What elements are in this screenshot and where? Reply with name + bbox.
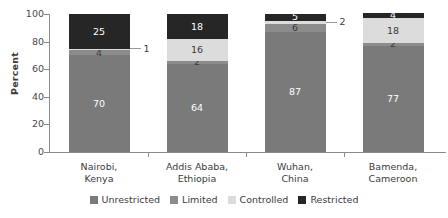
x-axis-category-label: Wuhan,China [240,161,350,185]
bar-segment-limited[interactable]: 6 [265,24,326,32]
segment-value-label: 16 [191,45,203,55]
bar-segment-unrestricted[interactable]: 70 [69,55,130,152]
category-label-line2: Cameroon [338,173,448,185]
bar-segment-limited[interactable]: 2 [167,61,228,64]
category-label-line1: Bamenda, [338,161,448,173]
callout-value-text: 1 [144,44,150,54]
segment-value-label: 77 [387,94,399,104]
segment-callout-label: 2 [326,17,346,27]
category-label-line2: China [240,173,350,185]
callout-value-text: 2 [340,17,346,27]
plot-area: 7042564216188765772184 [50,14,442,152]
bar-segment-controlled[interactable]: 16 [167,39,228,61]
bar-segment-limited[interactable]: 4 [69,50,130,56]
legend-item-controlled[interactable]: Controlled [228,195,289,205]
segment-value-label: 64 [191,103,203,113]
bar-segment-controlled[interactable]: 18 [363,18,424,43]
bar-segment-restricted[interactable]: 18 [167,14,228,39]
segment-value-label: 5 [292,13,298,23]
bar-1[interactable]: 70425 [69,14,130,152]
legend-item-restricted[interactable]: Restricted [298,195,358,205]
legend-label: Controlled [240,195,289,205]
segment-value-label: 6 [292,23,298,33]
bar-2[interactable]: 6421618 [167,14,228,152]
x-axis-tick-mark [344,152,345,157]
legend-label: Limited [182,195,217,205]
y-axis-tick-label: 40 [10,92,44,102]
legend-swatch-icon [298,196,306,204]
y-axis-tick-labels: 020406080100 [10,0,44,218]
bar-3[interactable]: 8765 [265,14,326,152]
category-label-line1: Wuhan, [240,161,350,173]
x-axis-tick-mark [148,152,149,157]
legend-label: Unrestricted [102,195,161,205]
y-axis-tick-label: 80 [10,37,44,47]
category-label-line1: Addis Ababa, [142,161,252,173]
bar-segment-limited[interactable]: 2 [363,43,424,46]
callout-leader-line [130,48,141,49]
y-axis-tick-label: 100 [10,9,44,19]
segment-value-label: 70 [93,99,105,109]
bar-segment-unrestricted[interactable]: 64 [167,64,228,152]
category-label-line1: Nairobi, [44,161,154,173]
bar-segment-restricted[interactable]: 25 [69,14,130,49]
bar-4[interactable]: 772184 [363,13,424,152]
category-label-line2: Ethiopia [142,173,252,185]
callout-leader-line [326,22,337,23]
x-axis-category-label: Bamenda,Cameroon [338,161,448,185]
legend-item-unrestricted[interactable]: Unrestricted [90,195,161,205]
segment-value-label: 18 [191,22,203,32]
x-axis-category-label: Nairobi,Kenya [44,161,154,185]
legend-item-limited[interactable]: Limited [170,195,217,205]
chart-legend: UnrestrictedLimitedControlledRestricted [0,195,448,205]
segment-value-label: 87 [289,87,301,97]
segment-callout-label: 1 [130,44,150,54]
y-axis-tick-label: 20 [10,119,44,129]
y-axis-tick-label: 0 [10,147,44,157]
legend-swatch-icon [228,196,236,204]
y-axis-tick-label: 60 [10,64,44,74]
x-axis-line [49,152,446,153]
x-axis-category-label: Addis Ababa,Ethiopia [142,161,252,185]
category-label-line2: Kenya [44,173,154,185]
x-axis-tick-mark [246,152,247,157]
legend-swatch-icon [90,196,98,204]
segment-value-label: 25 [93,27,105,37]
bar-segment-controlled[interactable] [69,49,130,50]
legend-label: Restricted [310,195,358,205]
segment-value-label: 18 [387,26,399,36]
bar-segment-unrestricted[interactable]: 87 [265,32,326,152]
legend-swatch-icon [170,196,178,204]
stacked-bar-chart: Percent 020406080100 7042564216188765772… [0,0,448,218]
bar-segment-restricted[interactable]: 4 [363,13,424,19]
segment-value-label: 4 [390,11,396,21]
bar-segment-restricted[interactable]: 5 [265,14,326,21]
bar-segment-unrestricted[interactable]: 77 [363,46,424,152]
